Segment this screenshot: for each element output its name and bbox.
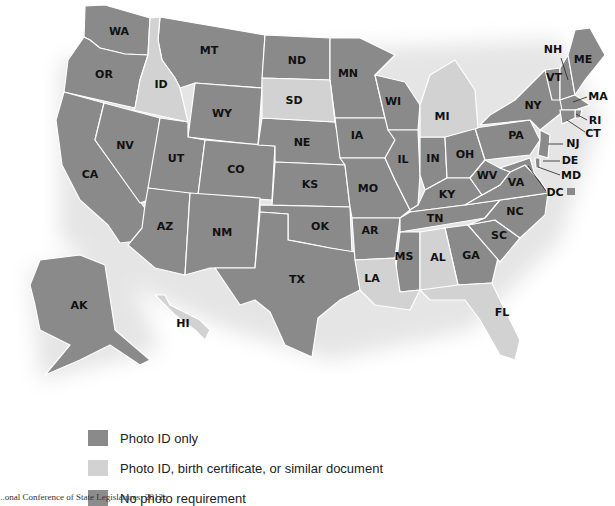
label-ct: CT [585,127,601,140]
legend-swatch-photo-id-only [88,430,108,446]
label-ut: UT [168,152,185,165]
label-wa: WA [109,25,130,38]
label-ar: AR [362,224,380,237]
label-nd: ND [288,54,306,67]
label-ak: AK [70,299,88,312]
label-va: VA [508,176,525,189]
label-ia: IA [351,129,364,142]
label-mt: MT [200,44,219,57]
label-sd: SD [285,94,302,107]
label-co: CO [227,163,244,176]
legend-swatch-photo-id-or-similar [88,460,108,476]
label-ks: KS [302,178,319,191]
legend-item-photo-id-or-similar: Photo ID, birth certificate, or similar … [88,454,383,482]
label-mi: MI [434,110,449,123]
label-de: DE [562,154,579,167]
label-oh: OH [456,148,475,161]
label-ky: KY [439,188,457,201]
legend-label: Photo ID only [120,431,198,446]
label-la: LA [364,272,380,285]
label-wi: WI [385,95,401,108]
label-vt: VT [546,71,563,84]
label-al: AL [430,251,446,264]
state-de[interactable] [535,158,540,168]
label-ny: NY [524,99,542,112]
legend-item-photo-id-only: Photo ID only [88,424,383,452]
label-nj: NJ [566,137,579,150]
label-ms: MS [395,250,414,263]
label-id: ID [154,78,167,91]
label-wv: WV [477,169,498,182]
label-or: OR [95,68,113,81]
dc-swatch [567,188,575,195]
label-mo: MO [358,182,378,195]
label-md: MD [561,169,581,182]
label-fl: FL [495,306,510,319]
us-voter-id-map: WA OR CA ID NV MT WY UT CO AZ NM ND SD N… [0,0,615,400]
label-ne: NE [294,136,311,149]
label-nm: NM [212,226,232,239]
label-in: IN [426,152,439,165]
label-ca: CA [82,168,99,181]
source-note: ...onal Conference of State Legislatures… [0,492,167,502]
label-tx: TX [289,273,306,286]
label-hi: HI [176,317,189,330]
label-ok: OK [311,220,329,233]
label-dc: DC [546,186,563,199]
label-ga: GA [462,249,480,262]
label-wy: WY [212,107,233,120]
label-az: AZ [157,220,174,233]
label-pa: PA [508,129,524,142]
label-ri: RI [589,114,602,127]
label-il: IL [397,153,408,166]
label-nv: NV [116,139,134,152]
label-tn: TN [427,212,444,225]
label-sc: SC [491,229,507,242]
legend-label: Photo ID, birth certificate, or similar … [120,461,383,476]
label-nh: NH [544,43,562,56]
label-mn: MN [338,67,358,80]
label-me: ME [574,53,592,66]
label-ma: MA [588,90,608,103]
label-nc: NC [506,205,523,218]
